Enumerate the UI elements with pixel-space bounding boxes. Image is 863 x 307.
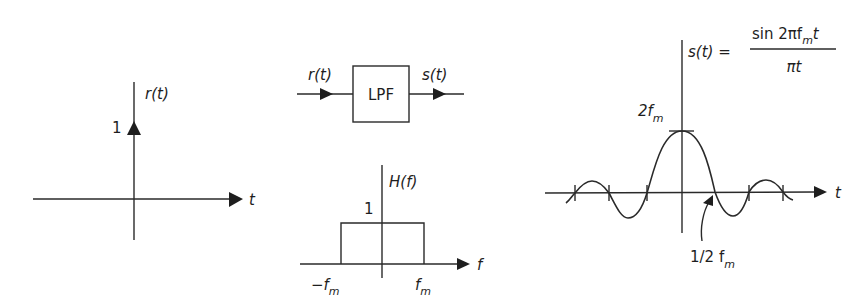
sinc-curve — [566, 131, 793, 218]
f-axis-arrow-icon — [457, 258, 470, 270]
formula-lhs: s(t) = — [688, 43, 731, 61]
formula-denominator: πt — [787, 58, 803, 76]
sinc-formula: s(t) = sin 2πfmt πt — [688, 25, 836, 76]
formula-numerator: sin 2πfmt — [752, 25, 820, 47]
lpf-block-panel: LPF r(t) s(t) — [297, 66, 464, 122]
r-of-t-label: r(t) — [145, 85, 169, 103]
t-axis-label: t — [835, 184, 842, 202]
impulse-panel: r(t) 1 t — [33, 82, 256, 240]
output-label: s(t) — [422, 66, 447, 84]
output-arrow-icon — [433, 88, 446, 100]
t-axis-arrow-icon — [814, 186, 827, 198]
minus-fm-label: −fm — [311, 276, 340, 298]
zero-crossing-arrow-icon — [703, 195, 713, 206]
impulse-arrow-icon — [127, 121, 141, 135]
zero-crossing-pointer — [701, 202, 709, 241]
t-axis-label: t — [249, 191, 256, 209]
zero-crossing-label: 1/2 fm — [690, 248, 735, 271]
impulse-height-label: 1 — [112, 119, 122, 137]
frequency-response-panel: H(f) 1 f −fm fm — [300, 165, 485, 298]
sinc-output-panel: 2fm t 1/2 fm s(t) = sin 2πfmt πt — [545, 25, 842, 271]
passband-gain-label: 1 — [364, 200, 374, 218]
input-label: r(t) — [308, 66, 332, 84]
t-axis — [545, 192, 815, 193]
f-axis-label: f — [477, 256, 485, 274]
lpf-label: LPF — [368, 86, 394, 104]
lpf-impulse-response-diagram: r(t) 1 t LPF r(t) s(t) H(f) 1 f −fm fm — [0, 0, 863, 307]
peak-label: 2fm — [638, 102, 664, 125]
t-axis-arrow-icon — [229, 192, 243, 207]
input-arrow-icon — [320, 88, 333, 100]
h-of-f-label: H(f) — [389, 173, 417, 191]
fm-label: fm — [415, 276, 431, 298]
